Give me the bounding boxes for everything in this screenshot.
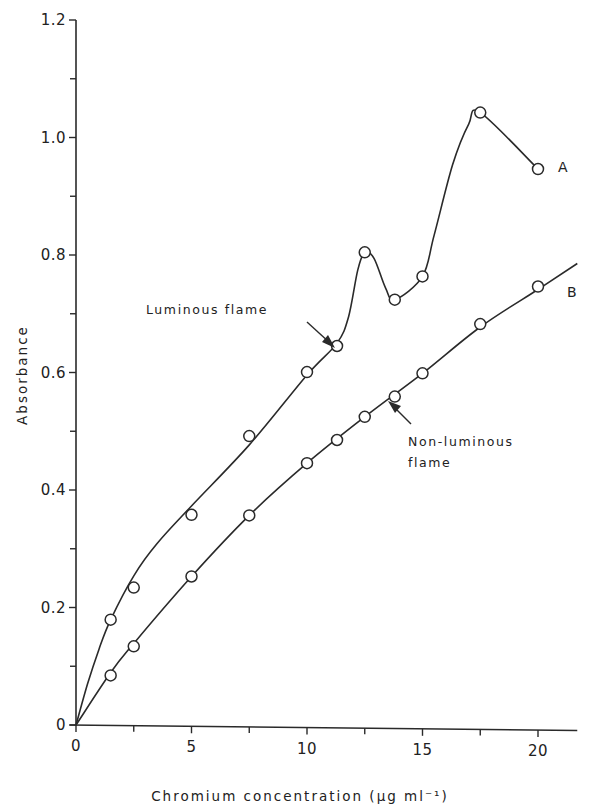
- x-tick-label: 0: [71, 737, 81, 755]
- series-a-label: A: [558, 159, 568, 175]
- y-axis-title: Absorbance: [14, 325, 30, 425]
- series-b-point-marker-icon: [359, 411, 370, 422]
- series-b-point-marker-icon: [475, 319, 486, 330]
- y-tick-label: 0.4: [41, 481, 66, 499]
- y-tick-label: 0: [56, 716, 66, 734]
- series-b-point-marker-icon: [244, 510, 255, 521]
- series-a-point-marker-icon: [389, 294, 400, 305]
- series-b-point-marker-icon: [128, 641, 139, 652]
- y-tick-label: 0.2: [41, 599, 66, 617]
- series-a-point-marker-icon: [186, 509, 197, 520]
- series-b-point-marker-icon: [389, 391, 400, 402]
- series-a-point-marker-icon: [533, 164, 544, 175]
- series-a-point-marker-icon: [128, 582, 139, 593]
- y-tick-label: 1.2: [41, 11, 66, 29]
- series-a-point-marker-icon: [359, 247, 370, 258]
- series-b-point-marker-icon: [105, 670, 116, 681]
- x-tick-label: 20: [528, 742, 548, 760]
- x-tick-label: 5: [186, 738, 196, 756]
- series-a-point-marker-icon: [105, 614, 116, 625]
- series-a-point-marker-icon: [244, 431, 255, 442]
- series-b-point-marker-icon: [417, 368, 428, 379]
- series-a-curve: [76, 110, 538, 725]
- series-a-point-marker-icon: [417, 271, 428, 282]
- luminous-arrow-icon: [307, 322, 335, 348]
- series-b-point-marker-icon: [186, 571, 197, 582]
- curves: [76, 110, 577, 725]
- series-b-curve: [76, 264, 577, 726]
- x-tick-label: 15: [412, 741, 432, 759]
- non-luminous-annotation-line1: Non-luminous: [408, 434, 514, 449]
- series-b-label: B: [567, 284, 577, 300]
- y-tick-label: 1.0: [41, 129, 66, 147]
- axes: 00.20.40.60.81.01.205101520: [41, 11, 578, 760]
- x-axis: [70, 725, 577, 731]
- y-tick-label: 0.6: [41, 364, 66, 382]
- series-b-point-marker-icon: [533, 281, 544, 292]
- series-a-point-marker-icon: [302, 367, 313, 378]
- series-b-point-marker-icon: [332, 434, 343, 445]
- series-a-point-marker-icon: [475, 107, 486, 118]
- x-axis-title: Chromium concentration (μg ml⁻¹): [151, 788, 449, 804]
- series-b-point-marker-icon: [302, 458, 313, 469]
- x-tick-label: 10: [297, 740, 317, 758]
- luminous-flame-annotation: Luminous flame: [146, 302, 268, 317]
- non-luminous-annotation-line2: flame: [408, 455, 451, 470]
- data-markers: [105, 107, 543, 681]
- absorbance-chart: 00.20.40.60.81.01.205101520 A B Luminous…: [0, 0, 594, 811]
- y-tick-label: 0.8: [41, 246, 66, 264]
- non-luminous-arrow-icon: [388, 401, 411, 424]
